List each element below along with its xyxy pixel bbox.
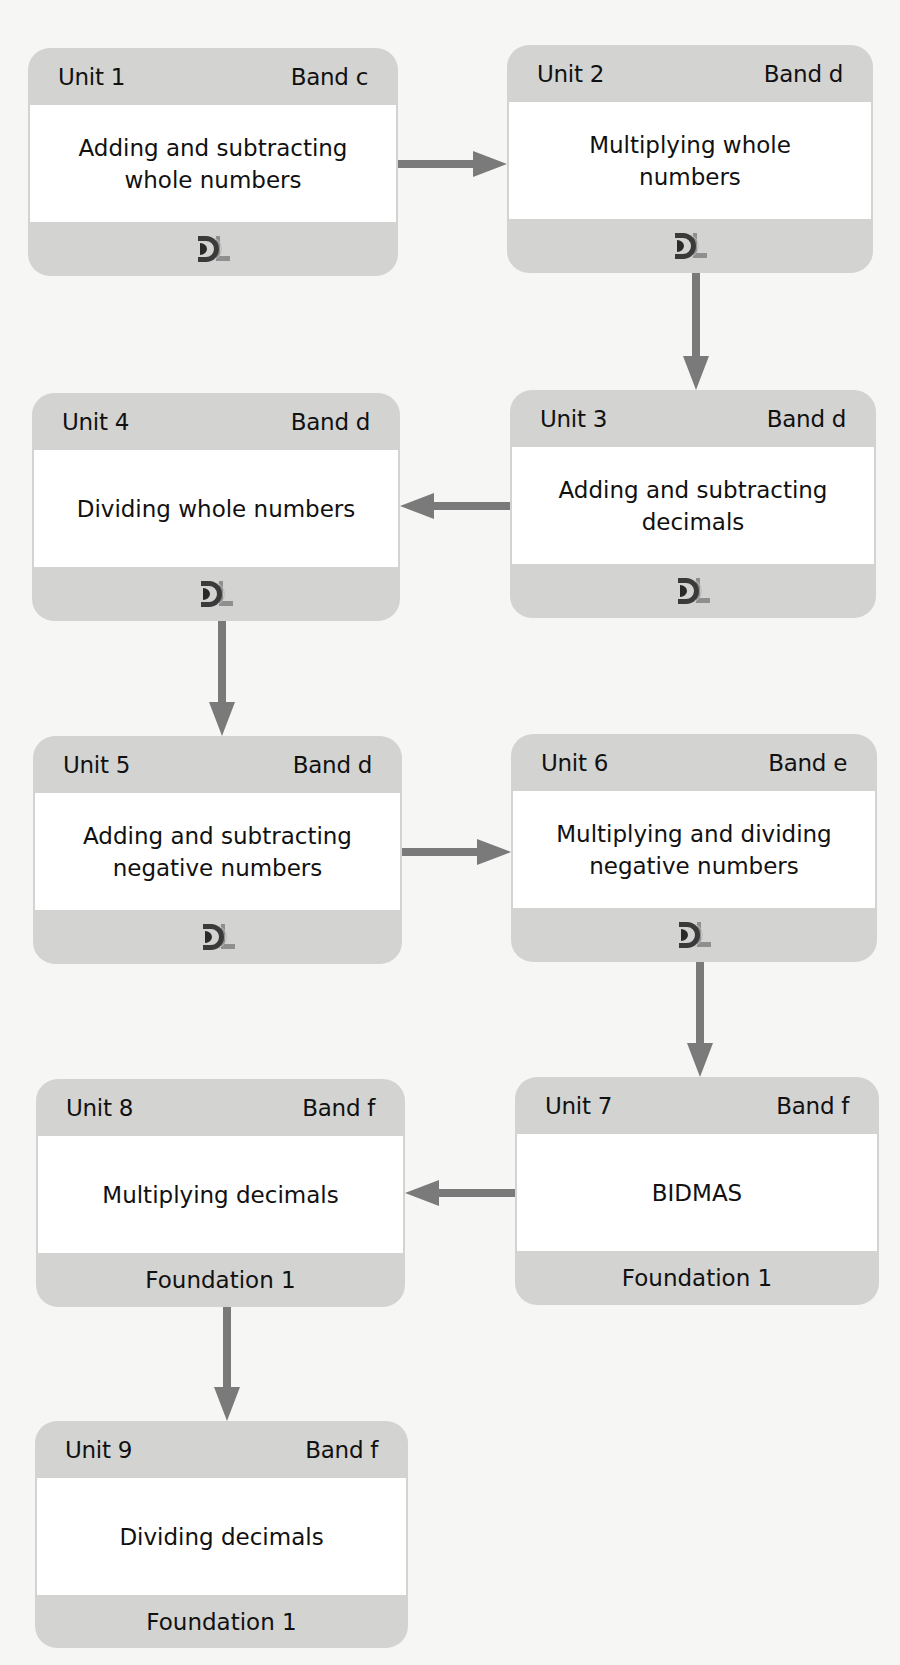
unit-title: Dividing decimals [119, 1521, 323, 1553]
unit-title: Adding and subtracting negative numbers [83, 820, 352, 884]
card-header: Unit 5 Band d [33, 736, 402, 793]
unit-title: Adding and subtracting whole numbers [79, 132, 348, 196]
arrow-down-6 [687, 962, 713, 1077]
band-label: Band c [291, 64, 368, 90]
band-label: Band f [305, 1437, 378, 1463]
arrow-left-7 [405, 1180, 515, 1206]
card-body: Dividing whole numbers [34, 450, 398, 567]
card-header: Unit 9 Band f [35, 1421, 408, 1478]
unit-title: Multiplying whole numbers [589, 129, 791, 193]
unit-card-8: Unit 8 Band f Multiplying decimals Found… [36, 1079, 405, 1307]
unit-label: Unit 3 [540, 406, 607, 432]
card-footer [510, 564, 876, 618]
band-label: Band f [776, 1093, 849, 1119]
level-label: Foundation 1 [145, 1267, 295, 1293]
arrow-right-1 [398, 151, 507, 177]
card-header: Unit 4 Band d [32, 393, 400, 450]
card-header: Unit 2 Band d [507, 45, 873, 102]
card-body: Multiplying whole numbers [509, 102, 871, 219]
unit-card-3: Unit 3 Band d Adding and subtracting dec… [510, 390, 876, 618]
card-header: Unit 3 Band d [510, 390, 876, 447]
card-body: Adding and subtracting whole numbers [30, 105, 396, 222]
band-label: Band d [291, 409, 370, 435]
band-label: Band d [767, 406, 846, 432]
card-footer [28, 222, 398, 276]
card-body: Adding and subtracting negative numbers [35, 793, 400, 910]
unit-title: Dividing whole numbers [77, 493, 356, 525]
unit-card-5: Unit 5 Band d Adding and subtracting neg… [33, 736, 402, 964]
unit-label: Unit 4 [62, 409, 129, 435]
unit-label: Unit 6 [541, 750, 608, 776]
arrow-left-3 [400, 493, 510, 519]
card-header: Unit 6 Band e [511, 734, 877, 791]
level-label: Foundation 1 [146, 1609, 296, 1635]
unit-title: Multiplying and dividing negative number… [556, 818, 831, 882]
unit-card-6: Unit 6 Band e Multiplying and dividing n… [511, 734, 877, 962]
card-footer [33, 910, 402, 964]
unit-title: Multiplying decimals [102, 1179, 338, 1211]
arrow-down-2 [683, 273, 709, 390]
unit-label: Unit 2 [537, 61, 604, 87]
dl-logo-icon [194, 234, 232, 264]
card-footer: Foundation 1 [35, 1595, 408, 1648]
dl-logo-icon [675, 920, 713, 950]
unit-card-9: Unit 9 Band f Dividing decimals Foundati… [35, 1421, 408, 1648]
unit-title: BIDMAS [652, 1177, 742, 1209]
card-body: Multiplying and dividing negative number… [513, 791, 875, 908]
arrow-right-5 [402, 839, 511, 865]
unit-label: Unit 1 [58, 64, 125, 90]
unit-label: Unit 5 [63, 752, 130, 778]
dl-logo-icon [674, 576, 712, 606]
unit-card-7: Unit 7 Band f BIDMAS Foundation 1 [515, 1077, 879, 1305]
dl-logo-icon [199, 922, 237, 952]
unit-card-1: Unit 1 Band c Adding and subtracting who… [28, 48, 398, 276]
unit-label: Unit 7 [545, 1093, 612, 1119]
dl-logo-icon [197, 579, 235, 609]
band-label: Band e [768, 750, 847, 776]
arrow-down-4 [209, 621, 235, 736]
card-body: Dividing decimals [37, 1478, 406, 1595]
band-label: Band d [293, 752, 372, 778]
card-header: Unit 8 Band f [36, 1079, 405, 1136]
unit-label: Unit 9 [65, 1437, 132, 1463]
card-header: Unit 7 Band f [515, 1077, 879, 1134]
band-label: Band d [764, 61, 843, 87]
card-body: Multiplying decimals [38, 1136, 403, 1253]
dl-logo-icon [671, 231, 709, 261]
unit-card-4: Unit 4 Band d Dividing whole numbers [32, 393, 400, 621]
card-body: Adding and subtracting decimals [512, 447, 874, 564]
unit-label: Unit 8 [66, 1095, 133, 1121]
unit-card-2: Unit 2 Band d Multiplying whole numbers [507, 45, 873, 273]
card-header: Unit 1 Band c [28, 48, 398, 105]
unit-title: Adding and subtracting decimals [559, 474, 828, 538]
card-footer [507, 219, 873, 273]
card-footer: Foundation 1 [515, 1251, 879, 1305]
card-footer: Foundation 1 [36, 1253, 405, 1307]
card-body: BIDMAS [517, 1134, 877, 1251]
card-footer [32, 567, 400, 621]
card-footer [511, 908, 877, 962]
band-label: Band f [302, 1095, 375, 1121]
arrow-down-8 [214, 1307, 240, 1421]
level-label: Foundation 1 [622, 1265, 772, 1291]
